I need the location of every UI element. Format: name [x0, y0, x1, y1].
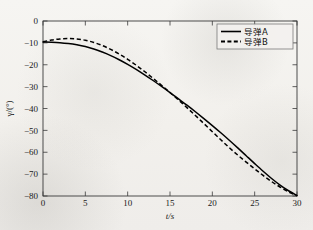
x-tick-label: 25 [250, 198, 260, 208]
x-tick-label: 15 [166, 198, 176, 208]
y-tick-label: −10 [24, 38, 39, 48]
y-tick-label: −60 [24, 147, 39, 157]
line-chart: 0 5 10 15 20 25 30 0 −10 −20 −30 −40 −50… [0, 0, 313, 230]
y-tick-label: 0 [34, 16, 39, 26]
legend[interactable]: 导弹A 导弹B [217, 24, 293, 49]
x-tick-label: 20 [208, 198, 218, 208]
x-tick-label: 5 [83, 198, 88, 208]
x-tick-labels: 0 5 10 15 20 25 30 [41, 198, 302, 208]
x-tick-label: 10 [123, 198, 133, 208]
legend-label-missile-b: 导弹B [244, 37, 268, 47]
y-tick-label: −30 [24, 82, 39, 92]
series-line-missile-b [43, 39, 297, 196]
y-tick-label: −20 [24, 60, 39, 70]
y-tick-label: −70 [24, 169, 39, 179]
legend-label-missile-a: 导弹A [244, 27, 268, 37]
x-tick-label: 0 [41, 198, 46, 208]
series-group [43, 39, 297, 196]
y-tick-labels: 0 −10 −20 −30 −40 −50 −60 −70 −80 [24, 16, 39, 201]
y-tick-label: −80 [24, 191, 39, 201]
y-axis-title: γ/(°) [4, 100, 14, 117]
y-tick-label: −40 [24, 104, 39, 114]
x-axis-title: t/s [166, 211, 175, 221]
chart-figure: 0 5 10 15 20 25 30 0 −10 −20 −30 −40 −50… [0, 0, 313, 230]
series-line-missile-a [43, 42, 297, 196]
y-tick-label: −50 [24, 126, 39, 136]
x-tick-label: 30 [293, 198, 303, 208]
